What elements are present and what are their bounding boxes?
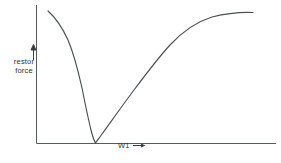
y-axis-label-line1: restor (14, 57, 34, 66)
y-axis-label: restor force (9, 57, 39, 75)
x-axis-label-text: W1 (118, 141, 130, 150)
restoring-force-curve (48, 11, 253, 143)
x-axis-label: W1 (118, 141, 146, 150)
plot-figure: restor force W1 (0, 0, 281, 163)
plot-canvas (0, 0, 281, 163)
right-arrow-icon (133, 142, 146, 149)
y-axis-label-line2: force (9, 66, 39, 75)
